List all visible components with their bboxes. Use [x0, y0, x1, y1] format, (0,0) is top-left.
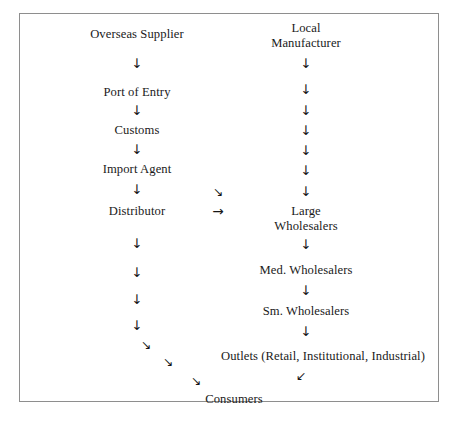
- node-customs: Customs: [115, 123, 160, 138]
- arrow-down-icon-right-4: ↓: [300, 124, 311, 137]
- arrow-down-icon-right-1: ↓: [300, 57, 311, 70]
- node-med-wholesalers: Med. Wholesalers: [260, 263, 353, 278]
- arrow-down-icon-left-2: ↓: [131, 104, 142, 117]
- node-consumers: Consumers: [205, 392, 263, 407]
- node-distributor: Distributor: [109, 204, 165, 219]
- arrow-down-right-icon-left-9: ↘: [141, 338, 151, 351]
- arrow-down-icon-right-5: ↓: [300, 144, 311, 157]
- arrow-down-icon-right-2: ↓: [300, 83, 311, 96]
- arrow-down-right-icon-left-10: ↘: [163, 355, 173, 368]
- arrow-down-icon-left-3: ↓: [131, 143, 142, 156]
- node-local-manufacturer-line2: Manufacturer: [271, 36, 341, 51]
- arrow-down-icon-left-5: ↓: [131, 237, 142, 250]
- node-large-wholesalers: Large Wholesalers: [274, 204, 337, 234]
- arrow-down-icon-right-7: ↓: [300, 185, 311, 198]
- arrow-down-right-icon-left-11: ↘: [191, 374, 201, 387]
- arrow-down-icon-right-10: ↓: [300, 325, 311, 338]
- arrow-down-icon-left-7: ↓: [131, 293, 142, 306]
- arrow-down-icon-right-9: ↓: [300, 284, 311, 297]
- diagram-frame: Overseas Supplier Port of Entry Customs …: [19, 13, 439, 402]
- arrow-down-right-icon-distributor-to-large: ↘: [213, 185, 223, 198]
- arrow-down-icon-left-1: ↓: [131, 57, 142, 70]
- arrow-down-icon-right-3: ↓: [300, 104, 311, 117]
- node-outlets: Outlets (Retail, Institutional, Industri…: [221, 349, 425, 364]
- node-overseas-supplier: Overseas Supplier: [90, 27, 184, 42]
- arrow-down-icon-left-4: ↓: [131, 183, 142, 196]
- arrow-down-icon-right-6: ↓: [300, 164, 311, 177]
- diagram-canvas: Overseas Supplier Port of Entry Customs …: [0, 0, 472, 430]
- node-local-manufacturer-line1: Local: [271, 21, 341, 36]
- arrow-down-icon-left-6: ↓: [131, 266, 142, 279]
- node-sm-wholesalers: Sm. Wholesalers: [263, 304, 350, 319]
- node-large-wholesalers-line2: Wholesalers: [274, 219, 337, 234]
- node-port-of-entry: Port of Entry: [103, 85, 170, 100]
- arrow-right-icon-distributor-to-large: →: [212, 205, 223, 218]
- arrow-down-left-icon-outlets-to-consumers: ↙: [296, 369, 306, 382]
- node-local-manufacturer: Local Manufacturer: [271, 21, 341, 51]
- node-import-agent: Import Agent: [103, 162, 172, 177]
- arrow-down-icon-right-8: ↓: [300, 238, 311, 251]
- arrow-down-icon-left-8: ↓: [131, 319, 142, 332]
- node-large-wholesalers-line1: Large: [274, 204, 337, 219]
